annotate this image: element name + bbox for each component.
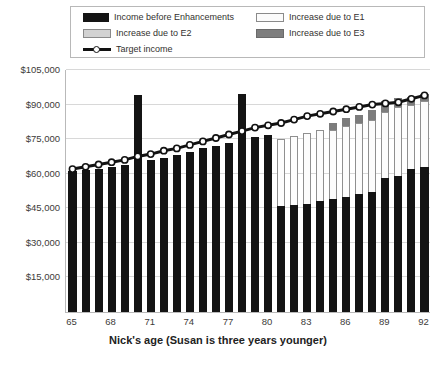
y-axis-tick-label: $45,000 [2,202,60,213]
e2-swatch-icon [83,29,111,38]
x-axis-tick-label: 92 [418,316,429,327]
x-axis-labels: 65687174778083868992 [65,316,430,330]
legend-item-income-before-enhancements: Income before Enhancements [83,12,234,22]
legend-item-target-income: Target income [83,44,173,54]
legend-row-1: Income before Enhancements [83,12,244,22]
legend-row-3: Increase due to E2 [83,28,202,38]
legend-label: Income before Enhancements [114,12,234,22]
x-axis-tick-label: 74 [184,316,195,327]
legend-row-2: Increase due to E1 [256,12,375,22]
plot-area [65,70,430,312]
x-axis-tick-label: 80 [262,316,273,327]
y-axis-tick-label: $60,000 [2,168,60,179]
legend-item-increase-due-to-e2: Increase due to E2 [83,28,192,38]
e3-swatch-icon [256,29,284,38]
legend-row-5: Target income [83,44,183,54]
y-axis-tick-label: $105,000 [2,64,60,75]
legend-item-increase-due-to-e3: Increase due to E3 [256,28,365,38]
target-line-swatch-icon [83,45,111,54]
legend-label: Increase due to E1 [289,12,365,22]
x-axis-tick-label: 77 [223,316,234,327]
x-axis-tick-label: 71 [144,316,155,327]
x-axis-tick-label: 89 [379,316,390,327]
x-axis-tick-label: 68 [105,316,116,327]
x-axis-title: Nick's age (Susan is three years younger… [0,334,436,346]
x-axis-line [65,312,430,313]
y-axis-labels: $15,000$30,000$45,000$60,000$75,000$90,0… [0,70,60,312]
legend-label: Increase due to E2 [116,28,192,38]
y-axis-tick-label: $15,000 [2,271,60,282]
chart-container: Income before Enhancements Increase due … [0,0,436,366]
legend-label: Increase due to E3 [289,28,365,38]
y-axis-tick-label: $90,000 [2,99,60,110]
x-axis-tick-label: 65 [66,316,77,327]
black-swatch-icon [83,13,109,22]
x-axis-tick-label: 83 [301,316,312,327]
legend-item-increase-due-to-e1: Increase due to E1 [256,12,365,22]
y-axis-tick-label: $30,000 [2,237,60,248]
x-axis-tick-label: 86 [340,316,351,327]
legend-label: Target income [116,44,173,54]
y-axis-tick-label: $75,000 [2,133,60,144]
chart-legend: Income before Enhancements Increase due … [70,6,425,58]
legend-row-4: Increase due to E3 [256,28,375,38]
target-income-line [66,70,431,312]
e1-swatch-icon [256,13,284,22]
